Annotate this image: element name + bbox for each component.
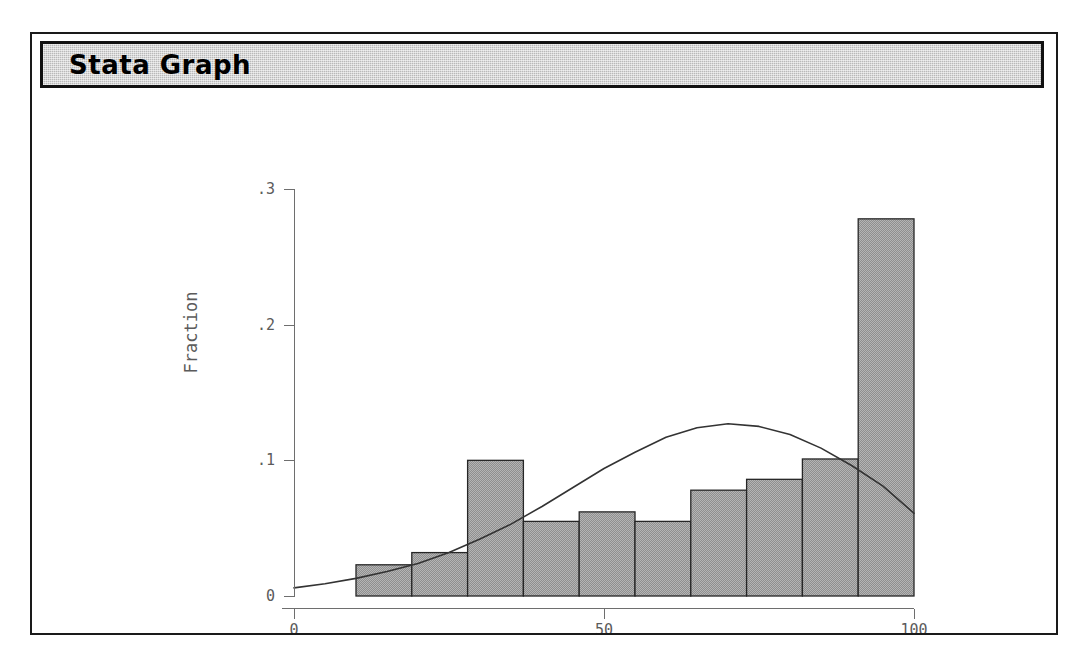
- histogram-bar: [412, 553, 468, 596]
- histogram-bar: [468, 460, 524, 596]
- histogram-bars: [356, 219, 914, 596]
- y-tick-label: .3: [257, 180, 275, 198]
- x-tick-label: 100: [900, 621, 927, 634]
- chart-plot-area: 0.1.2.3050100Adult Literacy Rate (%) 198…: [32, 92, 1056, 633]
- histogram-bar: [635, 521, 691, 596]
- histogram-bar: [356, 565, 412, 596]
- y-tick-label: .2: [257, 316, 275, 334]
- histogram-bar: [802, 459, 858, 596]
- histogram-bar: [858, 219, 914, 596]
- stata-graph-window: Stata Graph 0.1.2.3050100Adult Literacy …: [30, 32, 1058, 635]
- histogram-bar: [523, 521, 579, 596]
- x-tick-label: 50: [595, 621, 613, 634]
- histogram-bar: [747, 479, 803, 596]
- histogram-bar: [579, 512, 635, 596]
- window-title-bar[interactable]: Stata Graph: [40, 41, 1044, 88]
- x-tick-label: 0: [289, 621, 298, 634]
- y-axis-title: Fraction: [181, 292, 201, 374]
- y-tick-label: 0: [266, 587, 275, 605]
- histogram-bar: [691, 490, 747, 596]
- y-tick-label: .1: [257, 451, 275, 469]
- histogram-svg: 0.1.2.3050100Adult Literacy Rate (%) 198…: [32, 92, 1056, 633]
- window-title: Stata Graph: [69, 52, 251, 78]
